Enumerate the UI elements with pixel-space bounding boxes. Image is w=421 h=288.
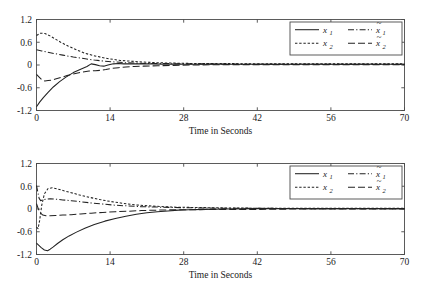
series-line-x_tilde_2 — [37, 204, 405, 216]
series-line-x_tilde_2 — [37, 65, 405, 81]
x-tick-label: 42 — [253, 257, 263, 267]
x-tick-label: 70 — [400, 113, 410, 123]
x-tick-label: 70 — [400, 257, 410, 267]
y-tick-label: -0.6 — [17, 83, 32, 93]
x-tick-label: 14 — [105, 113, 115, 123]
legend-subscript-x_tilde_1: 1 — [383, 29, 386, 36]
x-tick-label: 0 — [34, 113, 39, 123]
chart-svg-top: -1.2-0.600.61.201428425670Time in Second… — [0, 0, 421, 144]
x-tick-label: 28 — [179, 257, 189, 267]
y-tick-label: 1.2 — [20, 15, 32, 25]
legend-label-x_2: x — [322, 182, 327, 192]
series-line-x_1 — [37, 209, 405, 251]
x-axis-title: Time in Seconds — [189, 270, 253, 280]
y-tick-label: 0.6 — [20, 38, 32, 48]
x-tick-label: 56 — [326, 257, 336, 267]
series-line-x_1 — [37, 63, 405, 106]
legend-label-x_2: x — [322, 38, 327, 48]
legend-tilde-x_tilde_1: ~ — [377, 162, 382, 172]
legend-tilde-x_tilde_1: ~ — [377, 18, 382, 28]
chart-panel-bottom: -1.2-0.600.61.201428425670Time in Second… — [0, 144, 421, 288]
y-tick-label: 0 — [27, 204, 32, 214]
x-axis-title: Time in Seconds — [189, 126, 253, 136]
legend-label-x_1: x — [322, 169, 327, 179]
y-tick-label: -1.2 — [17, 106, 32, 116]
legend-label-x_1: x — [322, 25, 327, 35]
legend-box — [290, 166, 402, 199]
figure-two-stacked-line-charts: -1.2-0.600.61.201428425670Time in Second… — [0, 0, 421, 288]
y-tick-label: 0 — [27, 60, 32, 70]
y-tick-label: -0.6 — [17, 227, 32, 237]
chart-svg-bottom: -1.2-0.600.61.201428425670Time in Second… — [0, 144, 421, 288]
legend-tilde-x_tilde_2: ~ — [377, 32, 382, 42]
x-tick-label: 0 — [34, 257, 39, 267]
legend-subscript-x_tilde_1: 1 — [383, 173, 386, 180]
legend-box — [290, 22, 402, 55]
legend-subscript-x_1: 1 — [330, 173, 333, 180]
chart-panel-top: -1.2-0.600.61.201428425670Time in Second… — [0, 0, 421, 144]
legend-subscript-x_1: 1 — [330, 29, 333, 36]
x-tick-label: 28 — [179, 113, 189, 123]
y-tick-label: 1.2 — [20, 159, 32, 169]
y-tick-label: 0.6 — [20, 182, 32, 192]
x-tick-label: 42 — [253, 113, 263, 123]
legend-tilde-x_tilde_2: ~ — [377, 176, 382, 186]
x-tick-label: 56 — [326, 113, 336, 123]
x-tick-label: 14 — [105, 257, 115, 267]
y-tick-label: -1.2 — [17, 250, 32, 260]
